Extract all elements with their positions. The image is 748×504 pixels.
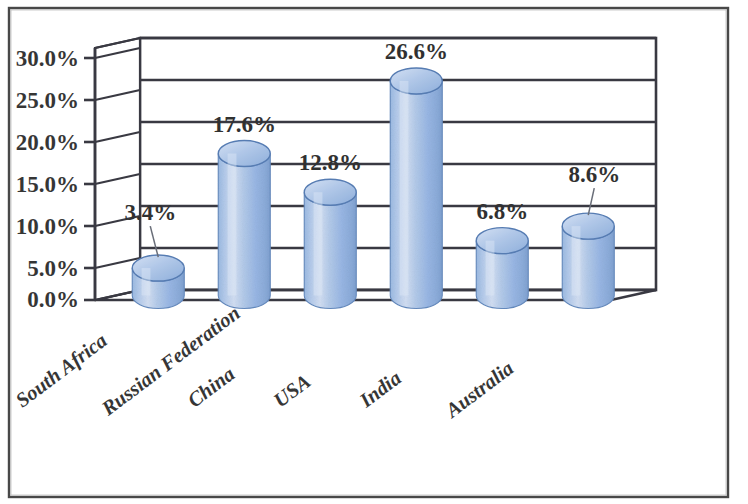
bar-top-cap — [390, 68, 442, 94]
bar-top-cap — [562, 213, 614, 239]
y-tick-label: 5.0% — [27, 256, 79, 281]
bar-body — [218, 154, 270, 309]
bar-body — [304, 192, 356, 308]
plot-left-wall — [95, 38, 140, 300]
y-tick-label: 20.0% — [16, 130, 79, 155]
y-tick-label: 0.0% — [27, 287, 79, 312]
bar-highlight — [572, 226, 581, 295]
bar-value-label: 12.8% — [299, 150, 362, 175]
chart-container: 30.0% 25.0% 20.0% 15.0% 10.0% 5.0% 0.0% … — [0, 0, 748, 504]
bar-value-label: 6.8% — [476, 199, 528, 224]
bar-value-label: 26.6% — [385, 39, 448, 64]
bar-highlight — [486, 241, 495, 296]
bar-top-cap — [132, 255, 184, 281]
bar-highlight — [314, 192, 323, 295]
bar-body — [390, 81, 442, 309]
bar-top-cap — [218, 141, 270, 167]
bar-cylinder — [390, 68, 442, 309]
bar-top-cap — [476, 228, 528, 254]
bar-highlight — [228, 154, 237, 296]
bar-top-cap — [304, 179, 356, 205]
bar-cylinder — [218, 141, 270, 309]
y-tick-label: 15.0% — [16, 172, 79, 197]
bar-cylinder — [562, 213, 614, 308]
y-tick-label: 25.0% — [16, 88, 79, 113]
bar-cylinder — [132, 255, 184, 308]
y-tick-label: 30.0% — [16, 46, 79, 71]
bar-value-label: 8.6% — [568, 162, 620, 187]
bar-highlight — [400, 81, 409, 296]
bar-value-label: 17.6% — [213, 112, 276, 137]
bar-highlight — [142, 268, 151, 295]
bar-value-label: 3.4% — [124, 200, 176, 225]
bar-cylinder — [476, 228, 528, 309]
bar-cylinder — [304, 179, 356, 308]
bar-chart: 30.0% 25.0% 20.0% 15.0% 10.0% 5.0% 0.0% … — [0, 0, 748, 504]
y-tick-label: 10.0% — [16, 214, 79, 239]
